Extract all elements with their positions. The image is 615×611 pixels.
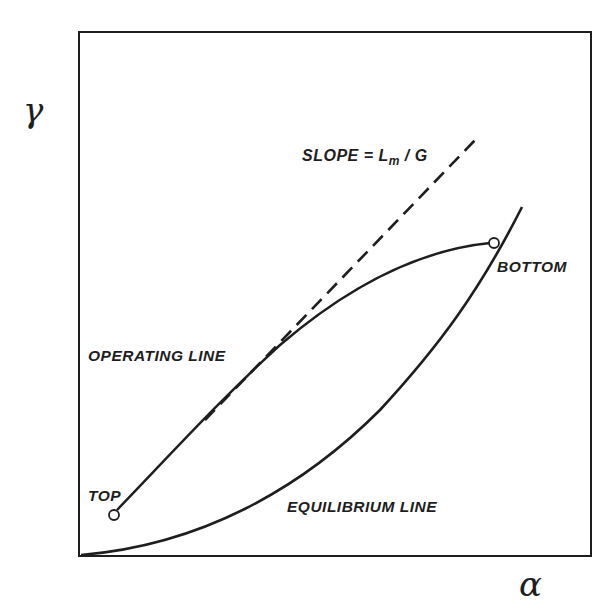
operating-equilibrium-diagram: SLOPE = Lm / G OPERATING LINE EQUILIBRIU… (0, 0, 615, 611)
equilibrium-line-label: EQUILIBRIUM LINE (287, 498, 437, 515)
slope-tangent-dashed-line (205, 137, 478, 420)
bottom-point-marker (489, 238, 499, 248)
plot-frame (79, 32, 591, 556)
top-point-marker (109, 510, 119, 520)
slope-label: SLOPE = Lm / G (302, 147, 428, 168)
operating-line-label: OPERATING LINE (88, 347, 226, 364)
bottom-label: BOTTOM (497, 258, 567, 275)
top-label: TOP (88, 487, 121, 504)
x-axis-symbol: α (519, 564, 542, 604)
operating-line-curve (117, 243, 490, 510)
y-axis-symbol: γ (23, 90, 44, 130)
